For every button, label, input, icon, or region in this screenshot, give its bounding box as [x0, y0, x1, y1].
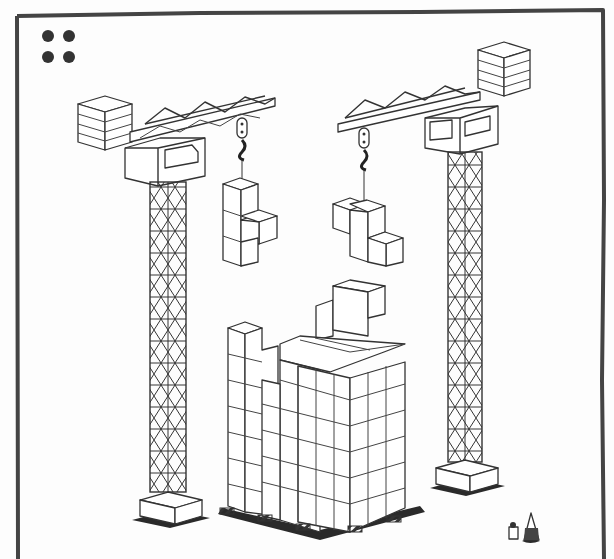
t-piece	[223, 178, 277, 266]
base-right	[430, 460, 505, 496]
cube-building	[218, 280, 425, 540]
jib-left	[130, 96, 275, 142]
cab-right	[425, 106, 498, 154]
workers	[509, 513, 540, 543]
counterweight-left	[78, 96, 132, 150]
s-piece	[333, 198, 403, 266]
base-left	[132, 492, 210, 528]
counterweight-right	[478, 42, 530, 96]
four-dots-icon	[42, 30, 75, 63]
hook-right	[359, 128, 369, 202]
construction-illustration	[0, 0, 614, 559]
cab-left	[125, 138, 205, 186]
hook-left	[237, 118, 247, 180]
